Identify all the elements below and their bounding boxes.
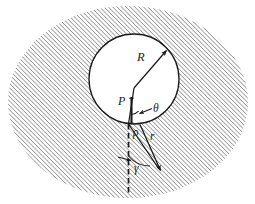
label-angle-gamma: γ	[134, 162, 139, 175]
label-angle-theta: θ	[153, 102, 159, 114]
label-length-rho: ρ	[132, 126, 139, 139]
cavity-circle	[89, 34, 179, 124]
geometry-diagram: R P θ ρ r γ	[0, 0, 255, 204]
label-point-p: P	[117, 94, 126, 108]
label-radius-outer: R	[136, 50, 145, 64]
figure-container: R P θ ρ r γ	[0, 0, 255, 204]
label-length-r: r	[150, 130, 155, 142]
